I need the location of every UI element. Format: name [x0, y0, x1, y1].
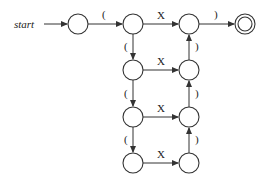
state-b1: [179, 14, 199, 34]
state-b2: [179, 60, 199, 80]
edge-label-close: ): [195, 40, 199, 53]
state-a3: [123, 107, 143, 127]
edge-label-open: (: [124, 40, 128, 53]
edge-label-close: ): [195, 87, 199, 100]
edge-label-open: (: [102, 8, 106, 21]
edge-label-x: X: [157, 102, 165, 114]
automaton-diagram: start ( X ) X X X ( ( (: [0, 0, 270, 186]
state-start: [68, 14, 88, 34]
state-a1: [123, 14, 143, 34]
edge-label-x: X: [157, 148, 165, 160]
edge-label-open: (: [124, 87, 128, 100]
state-b4: [179, 153, 199, 173]
start-label: start: [14, 18, 35, 30]
state-final-inner: [238, 17, 252, 31]
state-a2: [123, 60, 143, 80]
edge-label-close: ): [195, 133, 199, 146]
edge-label-x: X: [157, 9, 165, 21]
diagram-svg: start ( X ) X X X ( ( (: [0, 0, 270, 186]
edge-label-open: (: [124, 133, 128, 146]
state-b3: [179, 107, 199, 127]
state-a4: [123, 153, 143, 173]
edge-label-close: ): [214, 8, 218, 21]
edge-label-x: X: [157, 55, 165, 67]
